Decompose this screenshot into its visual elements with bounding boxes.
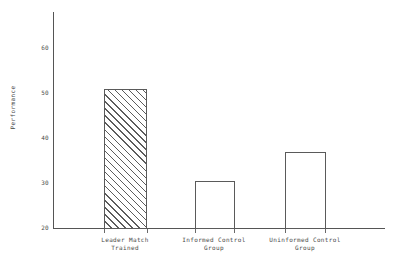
x-category-label-line2: Group [252,244,358,252]
bar-informed-control-group[interactable] [195,181,235,229]
x-category-label-line2: Group [164,244,264,252]
y-tick-label-50: 50 [29,90,49,96]
x-tick-mark [285,229,286,233]
x-tick-mark [104,229,105,233]
bar-leader-match-trained[interactable] [104,89,147,229]
x-category-label-line1: Leader Match [101,236,149,243]
x-category-label-uninformed-control-group: Uninformed Control Group [252,236,358,252]
y-tick-label-group: 60 50 40 30 20 [25,0,49,263]
x-category-label-leader-match-trained: Leader Match Trained [75,236,175,252]
x-category-label-informed-control-group: Informed Control Group [164,236,264,252]
bar-chart: Performance 60 50 40 30 20 Leader Match … [0,0,404,263]
x-category-label-line1: Informed Control [182,236,245,243]
y-axis-title: Performance [9,73,16,143]
bar-uninformed-control-group[interactable] [285,152,326,229]
x-category-label-line2: Trained [75,244,175,252]
y-tick-label-30: 30 [29,180,49,186]
y-tick-label-60: 60 [29,45,49,51]
x-tick-mark [147,229,148,233]
y-tick-label-20: 20 [29,225,49,231]
x-category-label-line1: Uninformed Control [269,236,340,243]
x-tick-mark [325,229,326,233]
x-tick-mark [195,229,196,233]
x-tick-mark [234,229,235,233]
y-tick-label-40: 40 [29,135,49,141]
plot-area [53,12,385,229]
